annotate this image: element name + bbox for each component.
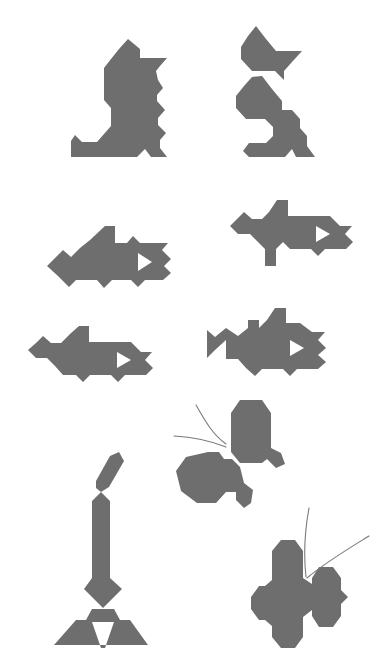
candle-collar xyxy=(86,609,120,620)
figures-canvas xyxy=(0,0,382,660)
page-background xyxy=(0,0,382,660)
figure-sheet: Sitting cat silhouette Sitting dog silho… xyxy=(0,0,382,660)
